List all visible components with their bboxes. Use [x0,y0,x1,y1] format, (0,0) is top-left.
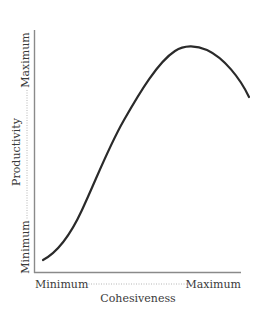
x-max-label: Maximum [186,278,242,291]
x-min-label: Minimum [35,278,89,291]
productivity-curve [43,46,249,260]
y-min-label: Minimum [19,220,32,274]
y-max-label: Maximum [19,32,32,88]
y-axis-title: Productivity [10,117,23,186]
x-axis-title: Cohesiveness [100,292,176,305]
chart-canvas: Maximum Productivity Minimum Minimum Max… [0,0,263,317]
